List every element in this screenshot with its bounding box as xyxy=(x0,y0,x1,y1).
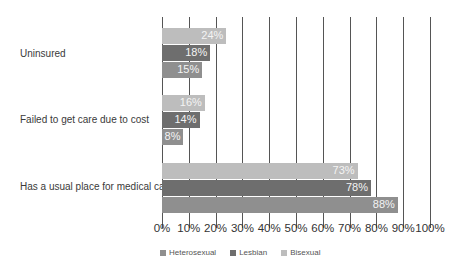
gridline xyxy=(403,17,404,228)
bar-heterosexual: 8% xyxy=(162,129,183,145)
legend: Heterosexual Lesbian Bisexual xyxy=(160,248,320,257)
bar-value-label: 14% xyxy=(174,113,196,125)
bar-lesbian: 18% xyxy=(162,45,210,61)
legend-item-bisexual: Bisexual xyxy=(281,248,320,257)
category-label-failed-care-cost: Failed to get care due to cost xyxy=(20,114,149,125)
x-tick-label: 30% xyxy=(231,222,254,234)
bar-value-label: 16% xyxy=(180,96,202,108)
x-tick-label: 10% xyxy=(177,222,200,234)
legend-swatch-bisexual xyxy=(281,250,287,256)
bar-value-label: 18% xyxy=(185,46,207,58)
bar-bisexual: 73% xyxy=(162,163,358,179)
bar-value-label: 73% xyxy=(333,164,355,176)
x-tick-label: 20% xyxy=(204,222,227,234)
bar-value-label: 78% xyxy=(346,181,368,193)
x-tick-label: 70% xyxy=(338,222,361,234)
bar-heterosexual: 88% xyxy=(162,197,398,213)
bar-lesbian: 78% xyxy=(162,180,371,196)
x-tick-label: 80% xyxy=(365,222,388,234)
legend-label: Lesbian xyxy=(239,248,267,257)
bar-value-label: 24% xyxy=(201,29,223,41)
x-tick-label: 100% xyxy=(415,222,444,234)
bar-heterosexual: 15% xyxy=(162,62,202,78)
legend-item-heterosexual: Heterosexual xyxy=(160,248,216,257)
x-tick-label: 40% xyxy=(258,222,281,234)
legend-item-lesbian: Lesbian xyxy=(230,248,267,257)
legend-swatch-heterosexual xyxy=(160,250,166,256)
bar-bisexual: 24% xyxy=(162,28,226,44)
bar-bisexual: 16% xyxy=(162,95,205,111)
x-tick-label: 0% xyxy=(154,222,171,234)
legend-label: Heterosexual xyxy=(169,248,216,257)
category-label-usual-place: Has a usual place for medical care xyxy=(20,181,173,192)
bar-value-label: 88% xyxy=(373,198,395,210)
legend-label: Bisexual xyxy=(290,248,320,257)
category-label-uninsured: Uninsured xyxy=(20,48,66,59)
bar-lesbian: 14% xyxy=(162,112,200,128)
bar-value-label: 15% xyxy=(177,63,199,75)
gridline xyxy=(430,17,431,228)
bar-value-label: 8% xyxy=(165,130,181,142)
x-tick-label: 50% xyxy=(284,222,307,234)
x-tick-label: 90% xyxy=(392,222,415,234)
x-tick-label: 60% xyxy=(311,222,334,234)
legend-swatch-lesbian xyxy=(230,250,236,256)
